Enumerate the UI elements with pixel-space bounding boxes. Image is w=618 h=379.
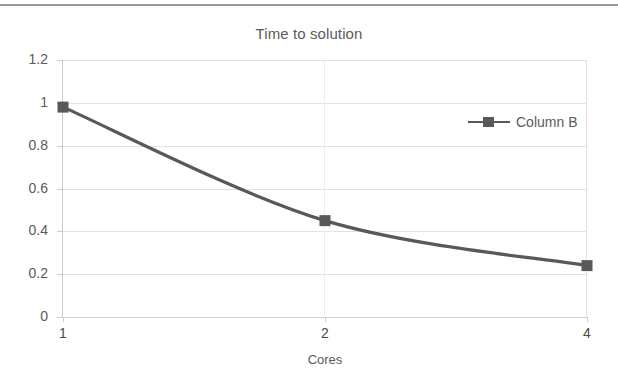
data-point-marker — [320, 215, 331, 226]
data-point-marker — [582, 260, 593, 271]
legend-marker-icon — [468, 115, 510, 129]
series-line-column-b — [63, 107, 587, 265]
chart-legend: Column B — [468, 114, 577, 130]
chart-page: Time to solution 1.2 1 0.8 0.6 0.4 0.2 0 — [0, 0, 618, 379]
legend-label-column-b: Column B — [510, 114, 577, 130]
data-point-marker — [58, 102, 69, 113]
data-series-layer — [0, 0, 618, 379]
